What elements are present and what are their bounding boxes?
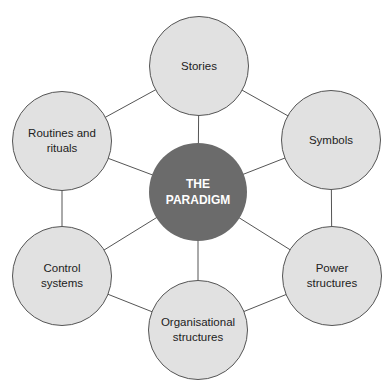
node-label: Symbols xyxy=(309,133,353,148)
node-the-paradigm: THE PARADIGM xyxy=(149,143,247,241)
node-label: Organisational structures xyxy=(161,315,235,345)
node-organisational-structures: Organisational structures xyxy=(148,280,248,380)
node-routines-and-rituals: Routines and rituals xyxy=(12,91,112,191)
node-label: Routines and rituals xyxy=(28,126,96,156)
node-stories: Stories xyxy=(149,16,249,116)
node-label: Power structures xyxy=(307,261,358,291)
node-symbols: Symbols xyxy=(281,90,381,190)
node-control-systems: Control systems xyxy=(12,226,112,326)
center-label: THE PARADIGM xyxy=(166,176,230,208)
node-label: Control systems xyxy=(41,261,83,291)
node-label: Stories xyxy=(181,59,217,74)
node-power-structures: Power structures xyxy=(282,226,382,326)
